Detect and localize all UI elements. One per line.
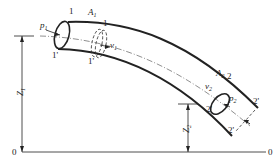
a1-label: A1	[87, 7, 97, 18]
v2-label: v2	[205, 81, 212, 92]
section2-outlet-top-marker: 2'	[253, 96, 260, 106]
z2-up-arrowhead-icon	[186, 104, 190, 110]
z2-label: Z2	[181, 125, 192, 133]
z2-down-arrowhead-icon	[186, 146, 190, 152]
section1-shifted-bottom-marker: 1'	[88, 56, 95, 66]
a2-label: A2	[215, 68, 225, 79]
section2-bottom-marker: 2'	[206, 104, 213, 114]
datum-left-label: 0	[12, 147, 17, 157]
section1-shifted-top-marker: 1	[103, 18, 108, 28]
datum-right-label: 0	[268, 147, 273, 157]
pipe-flow-diagram: p1 1 A1 1 1' 1' v1 A2 2 v2 p2 2' 2' 2' Z…	[0, 0, 277, 162]
section1-bottom-marker: 1'	[52, 50, 59, 60]
section2-outlet-bottom-marker: 2'	[228, 125, 235, 135]
section1-ellipse	[52, 20, 73, 51]
p1-arrowhead-icon	[55, 32, 60, 36]
z1-down-arrowhead-icon	[20, 146, 24, 152]
v1-label: v1	[110, 40, 117, 51]
section1-top-marker: 1	[69, 6, 74, 16]
p1-label: p1	[39, 20, 48, 31]
p2-label: p2	[228, 93, 237, 104]
z1-up-arrowhead-icon	[20, 36, 24, 42]
section2-top-marker: 2	[227, 71, 232, 81]
z1-label: Z1	[15, 88, 26, 96]
